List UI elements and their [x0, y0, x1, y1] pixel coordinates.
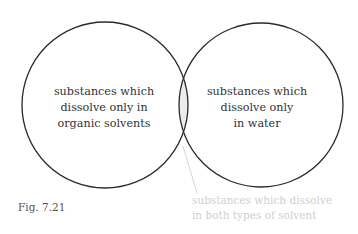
intersection-callout: substances which dissolve in both types … [192, 193, 332, 223]
right-label-line-3: in water [196, 116, 318, 132]
callout-line-2: in both types of solvent [192, 208, 332, 223]
figure-label: Fig. 7.21 [18, 201, 65, 213]
right-set-label: substances which dissolve only in water [196, 84, 318, 132]
right-label-line-2: dissolve only [196, 100, 318, 116]
left-label-line-1: substances which [43, 84, 165, 100]
left-set-label: substances which dissolve only in organi… [43, 84, 165, 132]
right-label-line-1: substances which [196, 84, 318, 100]
left-label-line-2: dissolve only in [43, 100, 165, 116]
left-label-line-3: organic solvents [43, 116, 165, 132]
callout-line-1: substances which dissolve [192, 193, 332, 208]
